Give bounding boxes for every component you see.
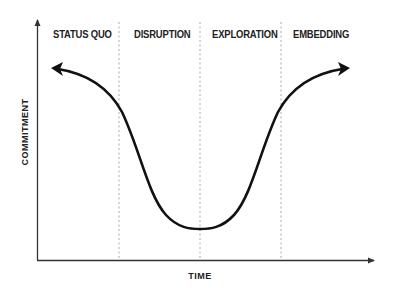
- x-axis-label: TIME: [0, 271, 393, 281]
- phase-label-exploration: EXPLORATION: [212, 28, 278, 40]
- y-axis-label: COMMITMENT: [20, 99, 30, 166]
- phase-label-embedding: EMBEDDING: [293, 28, 349, 40]
- phase-label-disruption: DISRUPTION: [134, 28, 191, 40]
- phase-label-status-quo: STATUS QUO: [53, 28, 112, 40]
- change-curve-diagram: [0, 0, 393, 295]
